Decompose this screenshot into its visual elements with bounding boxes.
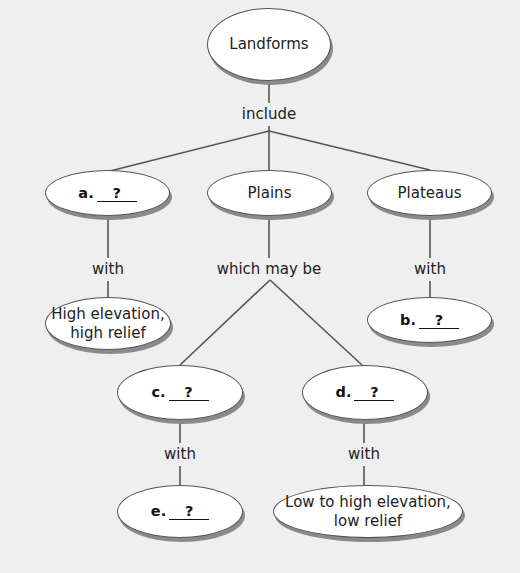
node-b-letter: b.	[400, 311, 416, 330]
node-low-to-high-elevation: Low to high elevation, low relief	[273, 485, 463, 538]
link-c-with: with	[162, 445, 198, 463]
node-high-elevation: High elevation, high relief	[45, 297, 171, 350]
node-d-blank[interactable]: d.?	[302, 365, 428, 420]
link-include: include	[240, 105, 298, 123]
node-plateaus-label: Plateaus	[397, 184, 461, 203]
node-low-to-high-line2: low relief	[334, 512, 402, 531]
node-e-blank[interactable]: e.?	[117, 485, 243, 538]
node-a-letter: a.	[78, 184, 93, 203]
node-a-blank[interactable]: a.?	[45, 170, 170, 216]
node-c-answer[interactable]: ?	[169, 384, 209, 401]
concept-map: Landforms include a.? Plains Plateaus wi…	[0, 0, 520, 573]
link-a-with: with	[90, 260, 126, 278]
node-plains-label: Plains	[248, 184, 292, 203]
node-low-to-high-line1: Low to high elevation,	[285, 493, 451, 512]
node-plains: Plains	[207, 170, 332, 216]
node-c-blank[interactable]: c.?	[117, 365, 243, 420]
node-high-elevation-line1: High elevation,	[51, 305, 164, 324]
node-b-answer[interactable]: ?	[419, 312, 459, 329]
node-d-letter: d.	[336, 383, 352, 402]
link-d-with: with	[346, 445, 382, 463]
link-plateaus-with: with	[412, 260, 448, 278]
node-e-answer[interactable]: ?	[169, 503, 209, 520]
node-a-answer[interactable]: ?	[97, 185, 137, 202]
link-plains-which-may-be: which may be	[215, 260, 324, 278]
connector-lines	[0, 0, 520, 573]
node-c-letter: c.	[151, 383, 165, 402]
node-e-letter: e.	[151, 502, 166, 521]
node-landforms: Landforms	[207, 8, 331, 81]
node-b-blank[interactable]: b.?	[367, 297, 492, 343]
node-landforms-label: Landforms	[229, 35, 308, 54]
node-d-answer[interactable]: ?	[354, 384, 394, 401]
node-plateaus: Plateaus	[367, 170, 492, 216]
node-high-elevation-line2: high relief	[70, 324, 145, 343]
